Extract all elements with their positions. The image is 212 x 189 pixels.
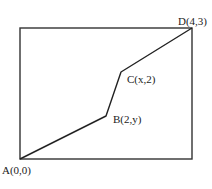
point-a-label: A(0,0) xyxy=(2,164,31,177)
diagram-canvas: A(0,0) B(2,y) C(x,2) D(4,3) xyxy=(0,0,212,189)
path-a-b-c-d xyxy=(20,28,192,159)
point-c-label: C(x,2) xyxy=(127,73,156,86)
point-b-label: B(2,y) xyxy=(113,113,142,126)
bounding-rectangle xyxy=(20,28,192,159)
point-d-label: D(4,3) xyxy=(178,15,207,28)
